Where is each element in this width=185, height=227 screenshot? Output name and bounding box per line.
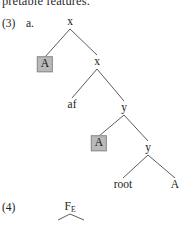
tree-edge (58, 214, 70, 220)
tree-node-y: y (145, 142, 151, 154)
tree-node-root: root (114, 179, 133, 191)
tree-node-shaded-a: A (91, 135, 107, 151)
tree-edges-example-3 (45, 29, 175, 178)
tree-edge (45, 29, 70, 57)
tree-node-a: A (171, 179, 179, 191)
tree-node-x: x (94, 56, 100, 68)
tree-edge (70, 29, 97, 55)
clipped-running-text: pretable features. (2, 0, 90, 9)
tree-node-af: af (68, 99, 77, 111)
tree-node-shaded-a: A (37, 56, 53, 72)
tree-edge (70, 214, 84, 220)
tree-edge (148, 155, 175, 178)
example-sublabel-3a: a. (26, 17, 34, 29)
tree-node-f: FE (65, 201, 76, 213)
tree-node-x: x (67, 16, 73, 28)
example-number-3: (3) (2, 17, 15, 29)
tree-edge-layer (0, 0, 185, 227)
tree-edge (123, 155, 148, 178)
page-canvas: pretable features. (3) a. (4) xAxafyAyro… (0, 0, 185, 227)
tree-node-y: y (121, 102, 127, 114)
tree-edge (99, 115, 124, 136)
tree-edge (72, 69, 97, 98)
tree-node-subscript: E (71, 205, 76, 214)
tree-edges-example-4 (58, 214, 84, 220)
tree-edge (97, 69, 124, 101)
example-number-4: (4) (2, 201, 15, 213)
tree-edge (124, 115, 148, 141)
